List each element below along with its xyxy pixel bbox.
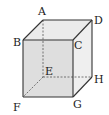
vertex-label-h: H (94, 73, 104, 86)
vertex-label-g: G (73, 98, 82, 111)
vertex-label-a: A (37, 5, 47, 18)
vertex-label-c: C (74, 39, 82, 52)
vertex-label-b: B (13, 36, 21, 49)
vertex-label-f: F (13, 101, 21, 114)
vertex-label-d: D (94, 14, 103, 27)
vertex-label-e: E (45, 65, 53, 78)
cube-diagram: A D B C E H F G (0, 0, 109, 115)
